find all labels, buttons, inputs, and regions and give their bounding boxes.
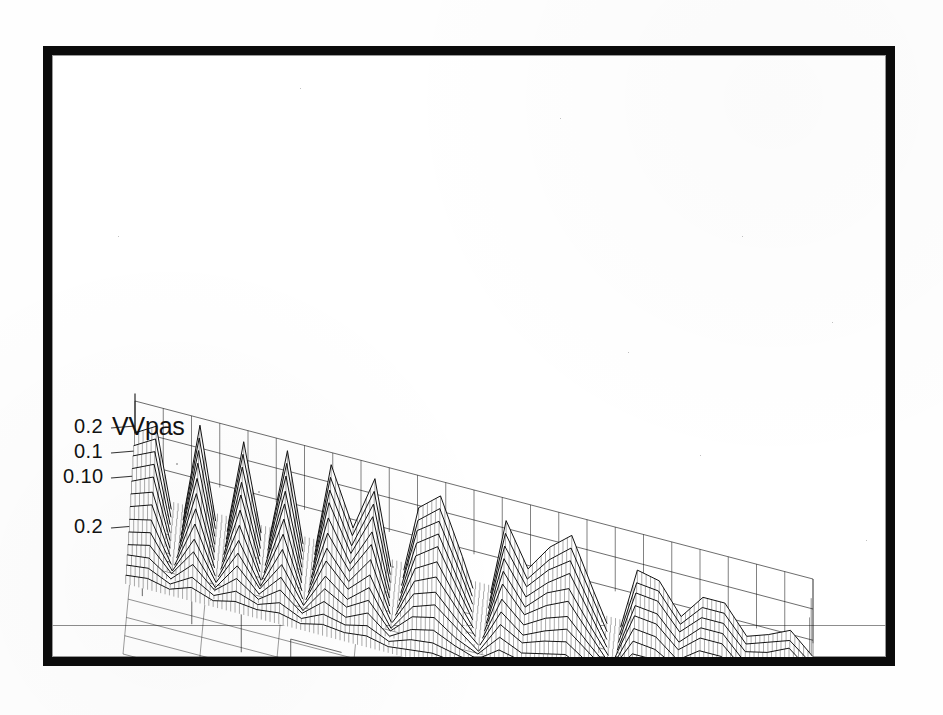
scan-speckle [176,463,178,465]
plot-area: VVpas 0.20.10.100.2 10203040506070809010… [52,55,886,657]
surface-plot-3d [52,55,886,657]
z-tick-label: 0.2 [74,416,103,436]
z-tick-label: 0.10 [63,466,104,486]
mesh-surface [126,425,813,657]
scanned-page: VVpas 0.20.10.100.2 10203040506070809010… [0,0,943,715]
z-tick-label: 0.1 [74,441,103,461]
figure-frame: VVpas 0.20.10.100.2 10203040506070809010… [43,46,895,666]
z-tick-label: 0.2 [74,516,103,536]
z-axis-title: VVpas [112,414,185,439]
scan-speckle [392,566,394,568]
